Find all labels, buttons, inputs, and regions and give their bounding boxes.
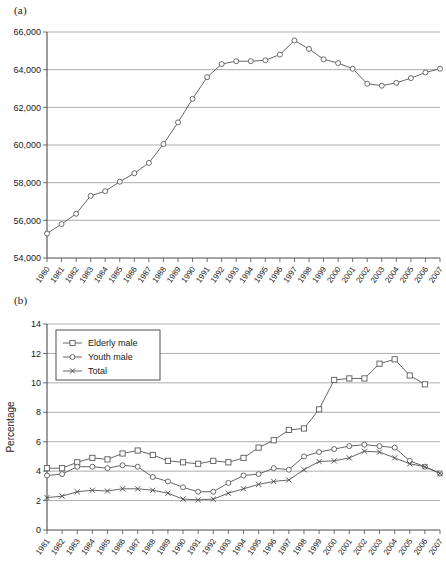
data-point-marker (165, 458, 170, 463)
data-point-marker (332, 447, 337, 452)
data-point-marker (196, 489, 201, 494)
x-axis-tick-label: 2005 (397, 537, 415, 557)
y-axis-tick-label: 2 (36, 496, 41, 506)
data-point-marker (60, 466, 65, 471)
x-axis-tick-label: 1989 (165, 265, 183, 285)
x-axis-tick-label: 1983 (64, 537, 82, 557)
x-axis-tick-label: 1995 (252, 265, 270, 285)
x-axis-tick-label: 1993 (215, 537, 233, 557)
data-point-marker (362, 442, 367, 447)
data-point-marker (263, 58, 268, 63)
data-point-marker (176, 120, 181, 125)
y-axis-title: Percentage (5, 401, 16, 453)
x-axis-tick-label: 2002 (354, 265, 372, 285)
x-axis-tick-label: 1999 (311, 265, 329, 285)
data-point-marker (241, 473, 246, 478)
chart-panel-a: (a) 54,00056,00058,00060,00062,00064,000… (0, 0, 446, 292)
x-axis-tick-label: 1984 (92, 265, 110, 285)
data-point-marker (60, 472, 65, 477)
x-axis-tick-label: 1997 (282, 265, 300, 285)
x-axis-tick-label: 1997 (276, 537, 294, 557)
data-point-marker (271, 466, 276, 471)
data-point-marker (219, 62, 224, 67)
data-point-marker (150, 475, 155, 480)
data-point-marker (347, 444, 352, 449)
x-axis-tick-label: 2006 (412, 537, 430, 557)
x-axis-tick-label: 1984 (79, 537, 97, 557)
data-point-marker (226, 460, 231, 465)
data-point-marker (286, 467, 291, 472)
x-axis-tick-label: 1991 (185, 537, 203, 557)
y-axis-tick-label: 66,000 (13, 27, 41, 37)
data-point-marker (117, 179, 122, 184)
data-point-marker (377, 444, 382, 449)
x-axis-tick-label: 1985 (95, 537, 113, 557)
data-point-marker (248, 59, 253, 64)
data-point-marker (45, 231, 50, 236)
data-point-marker (75, 464, 80, 469)
x-axis-tick-label: 1982 (49, 537, 67, 557)
data-point-marker (150, 452, 155, 457)
data-point-marker (316, 407, 321, 412)
x-axis-tick-label: 1980 (34, 265, 52, 285)
legend-label: Total (88, 366, 107, 376)
x-axis-tick-label: 1983 (78, 265, 96, 285)
data-point-marker (286, 427, 291, 432)
legend-marker-square (70, 340, 75, 345)
data-point-marker (59, 222, 64, 227)
data-point-marker (234, 59, 239, 64)
x-axis-tick-label: 1986 (110, 537, 128, 557)
y-axis-tick-label: 12 (31, 349, 41, 359)
x-axis-tick-label: 1992 (200, 537, 218, 557)
x-axis-tick-label: 2002 (351, 537, 369, 557)
y-axis-tick-label: 56,000 (13, 216, 41, 226)
data-point-marker (392, 445, 397, 450)
x-axis-tick-label: 1996 (261, 537, 279, 557)
data-point-marker (350, 66, 355, 71)
y-axis-tick-label: 0 (36, 525, 41, 535)
x-axis-tick-label: 2003 (369, 265, 387, 285)
y-axis-tick-label: 64,000 (13, 65, 41, 75)
y-axis-tick-label: 10 (31, 378, 41, 388)
data-point-marker (146, 160, 151, 165)
data-point-marker (90, 464, 95, 469)
data-point-marker (256, 445, 261, 450)
x-axis-tick-label: 1991 (194, 265, 212, 285)
data-point-marker (332, 377, 337, 382)
x-axis-tick-label: 1985 (107, 265, 125, 285)
y-axis-tick-label: 8 (36, 407, 41, 417)
data-point-marker (379, 83, 384, 88)
line-chart-a: 54,00056,00058,00060,00062,00064,00066,0… (0, 0, 446, 292)
x-axis-tick-label: 1981 (34, 537, 52, 557)
x-axis-tick-label: 1999 (306, 537, 324, 557)
x-axis-tick-label: 1990 (180, 265, 198, 285)
line-chart-b: 02468101214Percentage1981198219831984198… (0, 292, 446, 584)
data-point-marker (392, 357, 397, 362)
data-point-marker (135, 448, 140, 453)
data-point-marker (190, 96, 195, 101)
data-point-marker (226, 491, 231, 496)
data-point-marker (165, 479, 170, 484)
y-axis-tick-label: 60,000 (13, 140, 41, 150)
data-point-marker (88, 193, 93, 198)
x-axis-tick-label: 2006 (413, 265, 431, 285)
legend-label: Elderly male (88, 338, 138, 348)
legend-label: Youth male (88, 352, 133, 362)
data-point-marker (90, 455, 95, 460)
legend-marker-circle (70, 355, 75, 360)
data-point-marker (211, 458, 216, 463)
data-point-marker (394, 80, 399, 85)
x-axis-tick-label: 2001 (336, 537, 354, 557)
data-point-marker (336, 61, 341, 66)
data-point-marker (271, 438, 276, 443)
x-axis-tick-label: 1995 (246, 537, 264, 557)
data-point-marker (135, 464, 140, 469)
data-point-marker (292, 38, 297, 43)
data-point-marker (277, 52, 282, 57)
x-axis-tick-label: 2007 (427, 265, 445, 285)
data-point-marker (181, 485, 186, 490)
data-point-marker (241, 486, 246, 491)
x-axis-tick-label: 2007 (427, 537, 445, 557)
data-point-marker (423, 70, 428, 75)
data-point-marker (392, 455, 397, 460)
